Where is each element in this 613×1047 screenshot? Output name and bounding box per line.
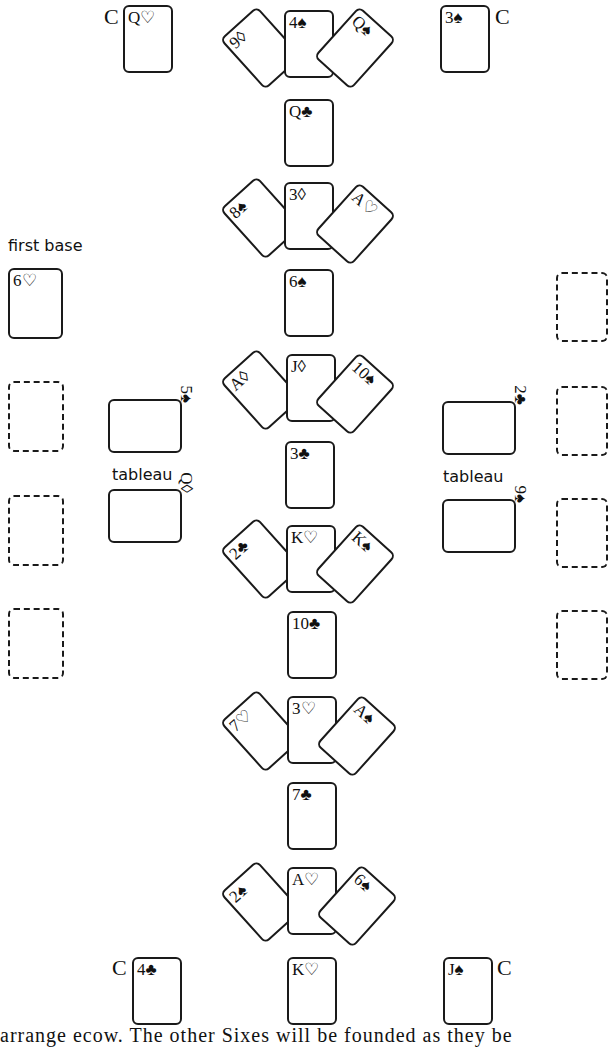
card-index: 6♠ [289, 272, 307, 292]
card-index: 9♠ [510, 485, 530, 503]
card-index: 9◊ [225, 27, 251, 53]
card-index: Q♡ [128, 8, 155, 28]
card-bottom-left[interactable]: 4♣ [132, 957, 182, 1025]
empty-slot-right-1[interactable] [556, 272, 608, 342]
c-marker: C [497, 955, 512, 981]
c-marker: C [495, 4, 510, 30]
card-index: K♡ [292, 960, 319, 980]
tableau-left-card-2[interactable]: Q◊ [108, 489, 182, 543]
first-base-card[interactable]: 6♡ [8, 268, 63, 339]
empty-slot-right-4[interactable] [556, 610, 608, 680]
card-index: 2♣ [225, 536, 253, 564]
card-index: 2♠ [225, 881, 251, 908]
tableau-right-label: tableau [443, 467, 503, 486]
center-single-3[interactable]: 3♣ [285, 441, 335, 509]
card-index: A♡ [292, 870, 319, 890]
card-index: A♠ [349, 700, 378, 729]
c-marker: C [104, 4, 119, 30]
card-bottom-right[interactable]: J♠ [443, 957, 493, 1025]
footer-text: arrange ecow. The other Sixes will be fo… [0, 1024, 613, 1047]
card-top-left[interactable]: Q♡ [123, 5, 173, 73]
card-index: Q♣ [289, 102, 312, 122]
tableau-left-card-1[interactable]: 5♠ [108, 399, 182, 453]
first-base-label: first base [8, 236, 83, 255]
card-index: 3♠ [445, 8, 463, 28]
tableau-left-label: tableau [112, 465, 172, 484]
empty-slot-left-1[interactable] [8, 381, 64, 452]
card-index: A◊ [225, 367, 254, 396]
card-index: 10♠ [347, 358, 380, 390]
card-index: 4♠ [289, 13, 307, 33]
card-index: 6♠ [349, 870, 375, 897]
c-marker: C [112, 955, 127, 981]
card-index: A♡ [347, 188, 381, 221]
tableau-right-card-2[interactable]: 9♠ [442, 499, 516, 553]
card-index: 7♡ [225, 706, 256, 737]
card-index: 3♣ [290, 444, 310, 464]
card-index: 5♠ [176, 385, 196, 403]
card-index: 10♣ [292, 614, 320, 634]
card-index: 7♣ [292, 785, 312, 805]
card-index: K♠ [347, 528, 376, 557]
card-index: 6♡ [13, 271, 37, 291]
card-index: K♡ [291, 528, 318, 548]
center-single-1[interactable]: Q♣ [284, 99, 334, 167]
empty-slot-left-3[interactable] [8, 608, 64, 679]
card-index: Q◊ [176, 472, 196, 493]
card-index: 3◊ [289, 185, 306, 205]
empty-slot-right-2[interactable] [556, 386, 608, 456]
center-single-2[interactable]: 6♠ [284, 269, 334, 337]
empty-slot-left-2[interactable] [8, 495, 64, 566]
card-index: J◊ [291, 357, 306, 377]
card-index: 8♠ [225, 197, 251, 224]
center-single-5[interactable]: 7♣ [287, 782, 337, 850]
tableau-right-card-1[interactable]: 2♣ [442, 401, 516, 455]
card-index: 3♡ [292, 699, 316, 719]
card-top-right[interactable]: 3♠ [440, 5, 490, 73]
empty-slot-right-3[interactable] [556, 498, 608, 568]
card-index: J♠ [448, 960, 464, 980]
card-index: 2♣ [510, 385, 530, 405]
center-single-4[interactable]: 10♣ [287, 611, 337, 679]
center-single-6[interactable]: K♡ [287, 957, 337, 1025]
card-index: 4♣ [137, 960, 157, 980]
card-index: Q♠ [347, 12, 376, 41]
